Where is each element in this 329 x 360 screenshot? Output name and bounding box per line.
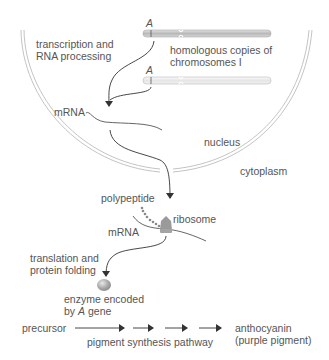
enzyme-icon bbox=[97, 279, 111, 291]
label-allele-a-bottom: A bbox=[146, 64, 153, 76]
mrna-export-arrow bbox=[110, 130, 170, 198]
label-allele-a-top: A bbox=[146, 17, 153, 29]
label-mrna-cytoplasm: mRNA bbox=[108, 226, 139, 238]
mrna-strand-nucleus bbox=[86, 112, 162, 130]
label-polypeptide: polypeptide bbox=[101, 192, 155, 204]
label-cytoplasm: cytoplasm bbox=[240, 165, 287, 177]
label-pathway: pigment synthesis pathway bbox=[87, 336, 213, 348]
label-homologous-chromosomes: homologous copies of chromosomes I bbox=[170, 44, 272, 68]
label-enzyme: enzyme encoded by A gene bbox=[64, 293, 144, 317]
label-ribosome: ribosome bbox=[173, 213, 216, 225]
label-mrna-nucleus: mRNA bbox=[54, 106, 85, 118]
polypeptide-chain bbox=[141, 207, 161, 228]
label-transcription: transcription and RNA processing bbox=[36, 38, 114, 62]
translation-arrow bbox=[106, 236, 166, 276]
label-nucleus: nucleus bbox=[204, 136, 240, 148]
chromosome-top bbox=[143, 30, 271, 37]
label-translation: translation and protein folding bbox=[30, 252, 99, 276]
ribosome bbox=[160, 216, 172, 233]
label-anthocyanin: anthocyanin (purple pigment) bbox=[235, 322, 311, 346]
label-precursor: precursor bbox=[22, 322, 66, 334]
chromosome-bottom bbox=[143, 77, 271, 84]
